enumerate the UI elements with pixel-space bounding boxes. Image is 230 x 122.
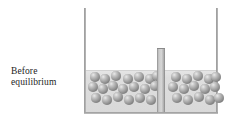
solute-particle (134, 72, 144, 82)
solute-particle (111, 71, 121, 81)
solute-particle (102, 95, 112, 105)
solute-particle (135, 93, 145, 103)
solute-particle (214, 93, 224, 103)
figure-before-equilibrium: Before equilibrium (0, 0, 230, 122)
semipermeable-barrier (157, 48, 165, 112)
solute-particle (129, 82, 139, 92)
solute-particle (179, 84, 189, 94)
solute-particle (189, 81, 199, 91)
solution-container (84, 8, 218, 114)
solute-particle (113, 92, 123, 102)
solute-particle (171, 72, 181, 82)
solute-particle (90, 72, 100, 82)
caption-line-1: Before (11, 66, 75, 77)
solute-particle (108, 81, 118, 91)
solute-particle (210, 82, 220, 92)
solute-particle (124, 95, 134, 105)
solute-particle (88, 82, 98, 92)
solute-particle (168, 82, 178, 92)
container-floor (84, 112, 218, 114)
solute-particle (193, 71, 203, 81)
solute-particle (146, 95, 156, 105)
solute-particle (183, 95, 193, 105)
figure-caption: Before equilibrium (11, 66, 75, 88)
solute-particle (172, 93, 182, 103)
solute-particle (211, 72, 221, 82)
solute-particle (194, 92, 204, 102)
container-left-wall (84, 8, 86, 114)
caption-line-2: equilibrium (11, 77, 75, 88)
solute-particle (91, 93, 101, 103)
solute-particle (98, 84, 108, 94)
container-headspace (86, 8, 216, 70)
